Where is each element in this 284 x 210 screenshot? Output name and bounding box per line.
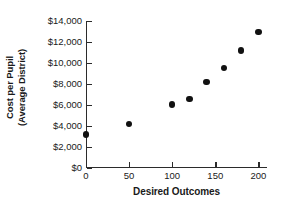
y-axis-tick: [87, 105, 92, 106]
data-point: [126, 121, 132, 127]
y-axis-tick: [87, 21, 92, 22]
y-axis-tick-labels: $0$2,000$4,000$6,000$8,000$10,000$12,000…: [28, 0, 82, 210]
x-axis-title: Desired Outcomes: [86, 186, 267, 197]
y-axis-tick-label: $4,000: [28, 121, 82, 131]
data-point: [221, 65, 227, 71]
y-axis-tick-label: $12,000: [28, 37, 82, 47]
x-axis-tick-label: 200: [250, 171, 266, 181]
data-point: [186, 96, 192, 102]
plot-area: 050100150200: [86, 21, 267, 168]
y-axis-title-line-2: (Average District): [16, 49, 28, 126]
x-axis-tick: [172, 162, 173, 167]
x-axis-tick-label: 150: [207, 171, 223, 181]
x-axis-line: [86, 167, 267, 168]
data-point: [203, 79, 209, 85]
y-axis-title-line-1: Cost per Pupil: [5, 56, 16, 119]
y-axis-tick-label: $0: [28, 163, 82, 173]
x-axis-tick: [258, 162, 259, 167]
y-axis-tick-label: $14,000: [28, 16, 82, 26]
data-point: [83, 131, 89, 137]
data-point: [169, 101, 175, 107]
y-axis-tick: [87, 147, 92, 148]
data-point: [238, 47, 244, 53]
x-axis-tick: [86, 162, 87, 167]
x-axis-tick-label: 100: [164, 171, 180, 181]
y-axis-tick: [87, 42, 92, 43]
y-axis-tick-label: $6,000: [28, 100, 82, 110]
x-axis-tick: [215, 162, 216, 167]
y-axis-tick: [87, 84, 92, 85]
x-axis-tick-label: 50: [124, 171, 135, 181]
y-axis-tick: [87, 126, 92, 127]
scatter-chart-figure: Cost per Pupil (Average District) $0$2,0…: [0, 0, 284, 210]
y-axis-title: Cost per Pupil (Average District): [5, 49, 28, 126]
x-axis-tick-label: 0: [83, 171, 88, 181]
y-axis-tick-label: $10,000: [28, 58, 82, 68]
data-point: [255, 29, 261, 35]
x-axis-tick: [129, 162, 130, 167]
y-axis-tick: [87, 63, 92, 64]
y-axis-tick-label: $2,000: [28, 142, 82, 152]
y-axis-tick-label: $8,000: [28, 79, 82, 89]
